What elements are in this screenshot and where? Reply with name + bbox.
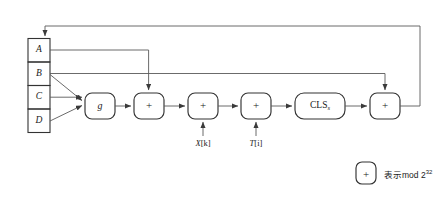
adder-box-3 xyxy=(241,93,271,119)
register-box-d xyxy=(28,109,50,133)
g-function-box xyxy=(85,93,115,119)
register-box-c xyxy=(28,86,50,110)
wire-d-to-g xyxy=(50,106,82,122)
adder-box-2 xyxy=(188,93,218,119)
wire-feedback-to-a xyxy=(45,26,420,106)
register-box-b xyxy=(28,62,50,86)
md5-step-diagram xyxy=(0,0,444,203)
wire-b-to-g xyxy=(50,75,82,101)
wire-a-to-adder1 xyxy=(50,50,149,90)
register-box-a xyxy=(28,39,50,63)
legend-symbol-box xyxy=(356,162,376,184)
diagram-canvas: A B C D g + + + + CLSs X[k] T[i] + 表示mod… xyxy=(0,0,444,203)
adder-box-1 xyxy=(134,93,164,119)
register-stack xyxy=(28,39,50,133)
cls-box xyxy=(295,93,345,119)
wire-b-to-adder4 xyxy=(50,74,385,91)
adder-box-4 xyxy=(370,93,400,119)
